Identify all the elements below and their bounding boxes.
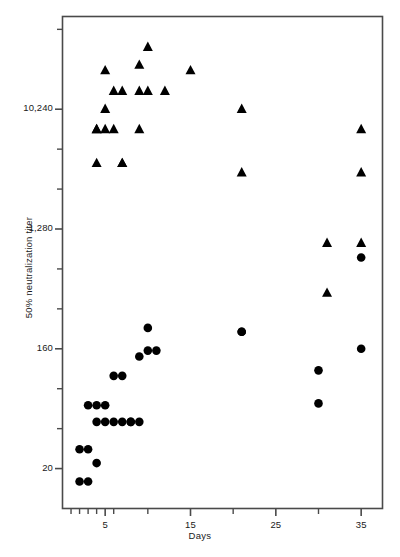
triangle-marker	[143, 85, 153, 94]
triangle-marker	[92, 124, 102, 133]
triangle-marker	[109, 85, 119, 94]
circle-marker	[135, 418, 144, 427]
triangle-marker	[322, 287, 332, 296]
scatter-plot-svg	[0, 0, 400, 557]
y-tick-label: 10,240	[0, 102, 53, 113]
x-tick-label: 25	[256, 519, 296, 530]
triangle-marker	[117, 85, 127, 94]
triangle-marker	[100, 124, 110, 133]
triangle-marker	[143, 42, 153, 51]
circle-marker	[152, 346, 161, 355]
triangle-marker	[322, 238, 332, 247]
circle-data-markers	[75, 253, 365, 485]
triangle-marker	[356, 238, 366, 247]
y-axis-title: 50% neutralization titer	[23, 178, 34, 358]
chart-figure: 10,2401,28016020 5152535 50% neutralizat…	[0, 0, 400, 557]
circle-marker	[357, 253, 366, 262]
circle-marker	[126, 418, 135, 427]
triangle-marker	[186, 65, 196, 74]
y-tick-label: 20	[0, 462, 53, 473]
circle-marker	[118, 418, 127, 427]
triangle-marker	[356, 124, 366, 133]
circle-marker	[314, 399, 323, 408]
triangle-data-markers	[92, 42, 367, 297]
circle-marker	[135, 352, 144, 361]
circle-marker	[101, 418, 110, 427]
circle-marker	[357, 344, 366, 353]
triangle-marker	[237, 104, 247, 113]
triangle-marker	[356, 167, 366, 176]
triangle-marker	[237, 167, 247, 176]
x-axis-minor-ticks	[71, 509, 318, 515]
x-tick-label: 15	[171, 519, 211, 530]
circle-marker	[109, 372, 118, 381]
circle-marker	[144, 346, 153, 355]
circle-marker	[84, 445, 93, 454]
circle-marker	[75, 445, 84, 454]
triangle-marker	[134, 85, 144, 94]
circle-marker	[84, 477, 93, 486]
circle-marker	[92, 418, 101, 427]
circle-marker	[92, 459, 101, 468]
circle-marker	[92, 401, 101, 410]
x-axis-title: Days	[0, 530, 400, 541]
triangle-marker	[109, 124, 119, 133]
circle-marker	[75, 477, 84, 486]
triangle-marker	[134, 124, 144, 133]
circle-marker	[314, 366, 323, 375]
x-tick-label: 35	[341, 519, 381, 530]
triangle-marker	[134, 59, 144, 68]
triangle-marker	[160, 85, 170, 94]
y-axis-major-ticks	[55, 109, 63, 468]
x-tick-label: 5	[85, 519, 125, 530]
circle-marker	[144, 324, 153, 333]
circle-marker	[101, 401, 110, 410]
triangle-marker	[100, 104, 110, 113]
circle-marker	[109, 418, 118, 427]
triangle-marker	[117, 158, 127, 167]
circle-marker	[118, 372, 127, 381]
plot-frame	[63, 17, 383, 509]
circle-marker	[84, 401, 93, 410]
triangle-marker	[92, 158, 102, 167]
triangle-marker	[100, 65, 110, 74]
circle-marker	[237, 327, 246, 336]
